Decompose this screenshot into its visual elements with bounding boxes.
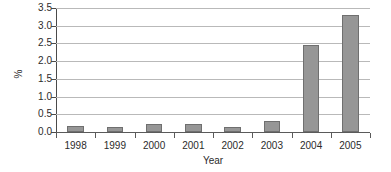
x-axis-title: Year (56, 155, 370, 167)
y-axis-tick-label: 3.5 (26, 3, 52, 13)
y-axis-tick-mark (51, 79, 56, 80)
x-axis-tick-label: 2001 (174, 140, 213, 152)
y-axis-tick-mark (51, 97, 56, 98)
bar (146, 124, 162, 132)
x-axis-tick-label: 2003 (252, 140, 291, 152)
x-axis-tick-mark (95, 133, 96, 138)
x-axis-tick-mark (174, 133, 175, 138)
x-axis-tick-mark (56, 133, 57, 138)
y-axis-tick-mark (51, 8, 56, 9)
x-axis-tick-label: 1999 (95, 140, 134, 152)
x-axis-tick-mark (331, 133, 332, 138)
y-axis-tick-mark (51, 26, 56, 27)
y-axis-tick-label: 3.0 (26, 21, 52, 31)
x-axis-tick-label: 1998 (56, 140, 95, 152)
x-axis-tick-label: 2005 (331, 140, 370, 152)
x-axis-tick-mark (135, 133, 136, 138)
y-axis-tick-mark (51, 43, 56, 44)
y-axis-tick-label: 2.0 (26, 56, 52, 66)
y-axis-tick-mark (51, 61, 56, 62)
x-axis-tick-mark (213, 133, 214, 138)
y-axis-tick-label: 1.0 (26, 92, 52, 102)
y-axis-tick-label: 2.5 (26, 38, 52, 48)
bar-chart: % 0.00.51.01.52.02.53.03.5 1998199920002… (0, 0, 391, 172)
y-axis-tick-label: 1.5 (26, 74, 52, 84)
bar (264, 121, 280, 132)
bar (342, 15, 358, 132)
y-axis-tick-label: 0.0 (26, 127, 52, 137)
bar (303, 45, 319, 132)
x-axis-tick-mark (292, 133, 293, 138)
x-axis-tick-label: 2000 (135, 140, 174, 152)
bar (67, 126, 83, 132)
bar (185, 124, 201, 132)
plot-area (56, 8, 370, 132)
y-axis-tick-labels: 0.00.51.01.52.02.53.03.5 (26, 8, 52, 132)
x-axis-tick-label: 2004 (292, 140, 331, 152)
bar (224, 127, 240, 132)
x-axis-tick-labels: 19981999200020012002200320042005 (56, 140, 370, 154)
bars-layer (56, 8, 370, 132)
x-axis-tick-mark (252, 133, 253, 138)
x-axis-tick-mark (370, 133, 371, 138)
y-axis-tick-label: 0.5 (26, 109, 52, 119)
y-axis-tick-mark (51, 114, 56, 115)
x-axis-tick-label: 2002 (213, 140, 252, 152)
bar (107, 127, 123, 132)
